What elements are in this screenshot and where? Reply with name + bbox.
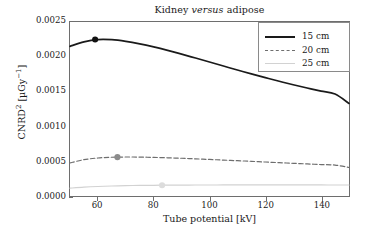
x-tick-label: 80 bbox=[133, 200, 173, 210]
y-tick-label: 0.0015 bbox=[8, 85, 66, 95]
x-tick-label: 140 bbox=[302, 200, 342, 210]
y-tick-label: 0.0000 bbox=[8, 191, 66, 201]
series-marker-25-cm bbox=[159, 182, 165, 188]
series-marker-15-cm bbox=[92, 36, 98, 42]
chart-legend: 15 cm20 cm25 cm bbox=[258, 22, 350, 72]
legend-label: 25 cm bbox=[302, 58, 329, 68]
series-marker-20-cm bbox=[114, 154, 120, 160]
legend-swatch-icon bbox=[265, 30, 295, 42]
y-tick-label: 0.0010 bbox=[8, 121, 66, 131]
chart-figure: Kidney versus adipose CNRD2 [µGy−1] 0.00… bbox=[0, 0, 366, 237]
chart-title-post: adipose bbox=[224, 4, 265, 15]
x-tick-label: 60 bbox=[77, 200, 117, 210]
legend-item-15-cm[interactable]: 15 cm bbox=[265, 29, 329, 43]
x-tick-label: 100 bbox=[190, 200, 230, 210]
series-line-25-cm bbox=[70, 185, 349, 188]
chart-title: Kidney versus adipose bbox=[69, 4, 350, 15]
chart-title-pre: Kidney bbox=[155, 4, 192, 15]
y-tick-label: 0.0005 bbox=[8, 156, 66, 166]
y-axis-tick-labels: 0.00000.00050.00100.00150.00200.0025 bbox=[3, 0, 66, 237]
x-axis-title: Tube potential [kV] bbox=[69, 213, 350, 224]
y-tick-mark bbox=[69, 197, 73, 198]
legend-item-20-cm[interactable]: 20 cm bbox=[265, 43, 329, 57]
legend-swatch-icon bbox=[265, 57, 295, 69]
legend-item-25-cm[interactable]: 25 cm bbox=[265, 56, 329, 70]
legend-swatch-icon bbox=[265, 44, 295, 56]
chart-title-italic: versus bbox=[192, 4, 224, 15]
series-line-20-cm bbox=[70, 157, 349, 167]
y-tick-label: 0.0025 bbox=[8, 15, 66, 25]
legend-label: 15 cm bbox=[302, 31, 329, 41]
y-tick-label: 0.0020 bbox=[8, 50, 66, 60]
x-tick-label: 120 bbox=[246, 200, 286, 210]
legend-label: 20 cm bbox=[302, 45, 329, 55]
